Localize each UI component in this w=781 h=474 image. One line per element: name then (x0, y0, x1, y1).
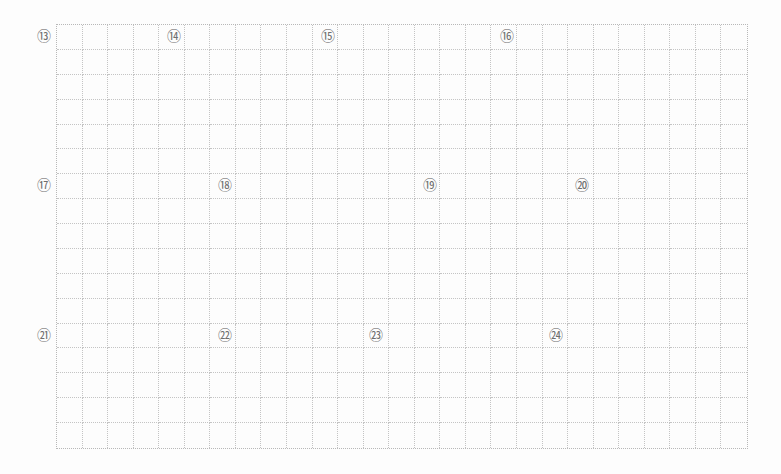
grid-cell (440, 398, 466, 423)
grid-cell (83, 50, 109, 75)
grid-cell (440, 199, 466, 224)
grid-cell (108, 423, 134, 448)
grid-cell (543, 274, 569, 299)
grid-cell (364, 100, 390, 125)
grid-cell (491, 174, 517, 199)
grid-cell (185, 125, 211, 150)
grid-cell (543, 423, 569, 448)
grid-cell (415, 125, 441, 150)
grid-cell (185, 149, 211, 174)
grid-cell (517, 100, 543, 125)
grid-cell (645, 174, 671, 199)
grid-cell (338, 199, 364, 224)
grid-cell (210, 274, 236, 299)
grid-cell (108, 50, 134, 75)
grid-cell (594, 324, 620, 349)
grid-cell (645, 274, 671, 299)
grid-cell (159, 299, 185, 324)
grid-cell (108, 274, 134, 299)
grid-cell (364, 398, 390, 423)
grid-cell (568, 75, 594, 100)
grid-cell (236, 50, 262, 75)
marker-20: ⑳ (575, 178, 589, 192)
grid-cell (287, 100, 313, 125)
grid-cell (517, 125, 543, 150)
grid-cell (415, 224, 441, 249)
grid-cell (670, 274, 696, 299)
grid-cell (517, 149, 543, 174)
grid-cell (721, 199, 747, 224)
grid-cell (338, 249, 364, 274)
grid-cell (159, 100, 185, 125)
grid-cell (338, 224, 364, 249)
grid-cell (440, 75, 466, 100)
grid-cell (696, 348, 722, 373)
grid-cell (440, 274, 466, 299)
grid-cell (108, 125, 134, 150)
grid-cell (313, 174, 339, 199)
grid-cell (466, 25, 492, 50)
grid-cell (466, 348, 492, 373)
marker-24: ㉔ (549, 328, 563, 342)
grid-cell (261, 174, 287, 199)
marker-21: ㉑ (37, 328, 51, 342)
grid-cell (491, 373, 517, 398)
grid-cell (313, 149, 339, 174)
grid-cell (159, 324, 185, 349)
grid-cell (57, 348, 83, 373)
marker-18: ⑱ (218, 178, 232, 192)
grid-cell (696, 398, 722, 423)
grid-cell (134, 100, 160, 125)
grid-cell (670, 249, 696, 274)
grid-cell (185, 199, 211, 224)
grid-cell (440, 423, 466, 448)
grid-cell (491, 274, 517, 299)
grid-cell (338, 125, 364, 150)
grid-cell (696, 423, 722, 448)
grid-cell (159, 174, 185, 199)
grid-cell (670, 149, 696, 174)
grid-cell (338, 100, 364, 125)
grid-cell (134, 174, 160, 199)
grid-cell (261, 249, 287, 274)
grid-cell (236, 149, 262, 174)
grid-cell (134, 50, 160, 75)
grid-cell (696, 249, 722, 274)
grid-cell (670, 348, 696, 373)
grid-cell (210, 50, 236, 75)
grid-cell (313, 274, 339, 299)
grid-cell (313, 75, 339, 100)
grid-cell (185, 249, 211, 274)
grid-cell (645, 299, 671, 324)
grid-cell (517, 174, 543, 199)
grid-cell (645, 249, 671, 274)
grid-cell (389, 199, 415, 224)
grid-cell (517, 249, 543, 274)
grid-cell (696, 125, 722, 150)
grid-cell (364, 348, 390, 373)
grid-cell (568, 199, 594, 224)
grid-cell (440, 324, 466, 349)
grid-cell (134, 199, 160, 224)
grid-cell (415, 100, 441, 125)
grid-cell (313, 398, 339, 423)
grid-cell (389, 174, 415, 199)
grid-cell (210, 249, 236, 274)
grid-cell (236, 324, 262, 349)
grid-cell (696, 50, 722, 75)
grid-cell (389, 299, 415, 324)
grid-cell (236, 423, 262, 448)
marker-23: ㉓ (369, 328, 383, 342)
grid-cell (287, 249, 313, 274)
grid-cell (670, 373, 696, 398)
grid-cell (108, 373, 134, 398)
grid-cell (619, 398, 645, 423)
grid-cell (185, 100, 211, 125)
grid-cell (543, 50, 569, 75)
grid-cell (261, 75, 287, 100)
grid-cell (440, 249, 466, 274)
grid-cell (159, 398, 185, 423)
grid-cell (466, 274, 492, 299)
marker-13: ⑬ (37, 29, 51, 43)
grid-cell (389, 398, 415, 423)
